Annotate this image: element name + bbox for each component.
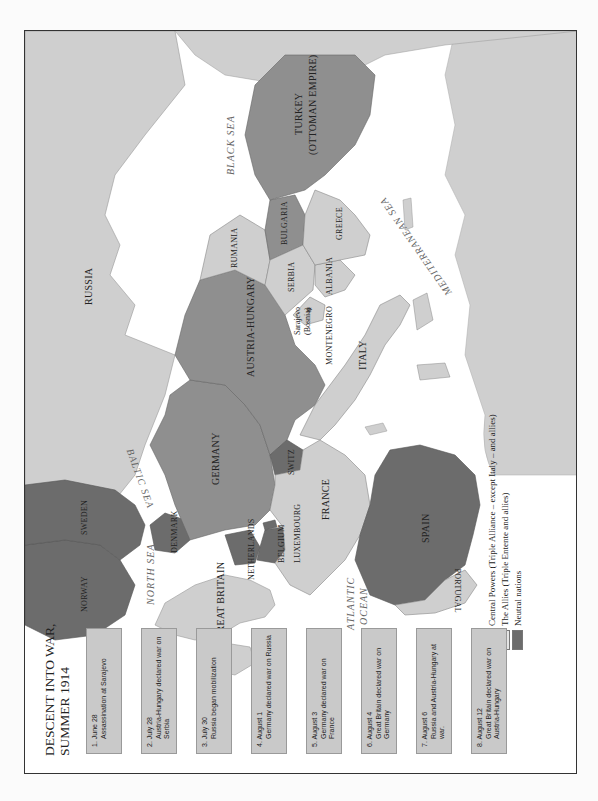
label-switz: SWITZ <box>287 449 296 475</box>
legend-label: Central Powers (Triple Alliance – except… <box>487 414 497 626</box>
legend-neutral: Neutral nations <box>511 414 524 650</box>
label-sweden: SWEDEN <box>80 500 89 535</box>
label-spain: SPAIN <box>420 514 431 543</box>
map-page: RUSSIA GERMANY AUSTRIA-HUNGARY TURKEY (O… <box>24 30 577 774</box>
label-turkey: TURKEY <box>293 93 304 135</box>
label-ocean: OCEAN <box>358 587 369 625</box>
label-belgium: BELGIUM <box>277 524 286 563</box>
map-legend: Central Powers (Triple Alliance – except… <box>485 414 524 650</box>
label-albania: ALBANIA <box>325 257 334 295</box>
label-russia: RUSSIA <box>83 268 94 305</box>
label-luxembourg: LUXEMBOURG <box>293 504 302 563</box>
label-serbia: SERBIA <box>287 262 296 292</box>
legend-allies: The Allies (Triple Entente and allies) <box>498 414 511 650</box>
label-germany: GERMANY <box>210 432 221 485</box>
label-denmark: DENMARK <box>170 510 179 553</box>
legend-label: The Allies (Triple Entente and allies) <box>500 493 510 626</box>
label-ottoman-empire: (OTTOMAN EMPIRE) <box>307 55 318 155</box>
label-bulgaria: BULGARIA <box>280 201 289 245</box>
sarajevo-star-icon: ✵ <box>305 306 314 313</box>
label-portugal: PORTUGAL <box>453 568 462 613</box>
map-stage: RUSSIA GERMANY AUSTRIA-HUNGARY TURKEY (O… <box>25 31 577 774</box>
label-great-britain: GREAT BRITAIN <box>215 562 226 640</box>
label-italy: ITALY <box>357 340 368 370</box>
label-netherlands: NETHERLANDS <box>247 518 256 580</box>
europe-map <box>25 31 577 774</box>
label-north-sea: NORTH SEA <box>145 544 156 606</box>
label-france: FRANCE <box>320 479 331 520</box>
label-black-sea: BLACK SEA <box>225 115 236 175</box>
swatch-central-icon <box>486 630 497 650</box>
label-greece: GREECE <box>335 207 344 240</box>
legend-label: Neutral nations <box>513 571 523 626</box>
label-rumania: RUMANIA <box>230 228 239 268</box>
label-norway: NORWAY <box>80 576 89 612</box>
label-montenegro: MONTENEGRO <box>325 306 334 365</box>
swatch-allies-icon <box>499 630 510 650</box>
swatch-neutral-icon <box>512 630 523 650</box>
label-sarajevo: Sarajevo <box>293 307 302 335</box>
label-austria-hungary: AUSTRIA-HUNGARY <box>245 276 256 377</box>
label-atlantic: ATLANTIC <box>345 577 356 630</box>
legend-central-powers: Central Powers (Triple Alliance – except… <box>485 414 498 650</box>
